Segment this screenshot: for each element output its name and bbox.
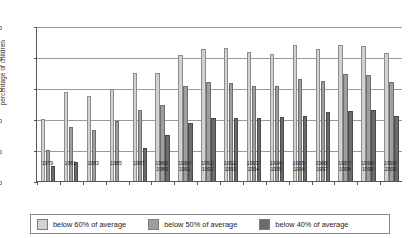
x-tick-label-line: 1985 [110,160,122,166]
x-tick-label-line: 1998 [338,166,351,172]
bar-group [224,27,239,181]
y-axis-title: percentage of children [0,40,6,105]
bar-s50 [115,121,119,181]
x-tick-label-line: 1989 [155,166,168,172]
y-tick-label: 30 [0,86,2,93]
y-tick-mark [34,89,37,90]
x-tick-mark [197,182,198,185]
x-tick-label: 1992/1993 [224,160,237,172]
y-tick-label: 20 [0,117,2,124]
bar-group [384,27,399,181]
x-tick-label-line: 1983 [87,160,99,166]
bar-group [178,27,193,181]
legend-item-s60: below 60% of average [37,219,126,230]
bar-group [155,27,170,181]
bar-s50 [138,110,142,181]
x-tick-label: 1985 [110,160,122,166]
y-tick-label: 50 [0,24,2,31]
bar-s60 [110,89,114,181]
x-tick-label: 1991/1992 [201,160,214,172]
y-tick-label: 10 [0,148,2,155]
x-tick-mark [129,182,130,185]
y-tick-mark [34,151,37,152]
x-tick-label: 1999/2000 [384,160,397,172]
legend-label: below 60% of average [53,220,126,229]
bar-s50 [69,127,73,181]
bar-group [41,27,56,181]
x-tick-label: 1998/1999 [361,160,374,172]
y-tick-mark [34,120,37,121]
bar-s50 [92,130,96,181]
x-tick-label: 1981 [65,160,77,166]
x-tick-mark [220,182,221,185]
x-tick-label: 1993/1994 [247,160,260,172]
x-tick-label-line: 1991 [178,166,191,172]
bar-group [361,27,376,181]
x-tick-label: 1994/1995 [270,160,283,172]
legend-swatch-s40 [259,219,270,230]
y-tick-label: 40 [0,55,2,62]
bar-s40 [165,135,169,181]
bar-group [201,27,216,181]
x-tick-label-line: 1987 [133,160,145,166]
x-tick-mark [243,182,244,185]
x-tick-mark [334,182,335,185]
plot-area [36,27,402,182]
x-tick-label-line: 1979 [42,160,54,166]
bar-s40 [51,166,55,181]
legend-swatch-s50 [148,219,159,230]
x-tick-label-line: 1997 [315,166,328,172]
x-tick-label: 1996/1997 [315,160,328,172]
x-tick-mark [357,182,358,185]
bar-group [87,27,97,181]
x-tick-label-line: 1992 [201,166,214,172]
bar-s60 [87,96,91,181]
bar-group [110,27,120,181]
x-tick-label-line: 1981 [65,160,77,166]
x-tick-mark [266,182,267,185]
x-tick-label-line: 1995 [270,166,283,172]
x-tick-mark [83,182,84,185]
bar-group [133,27,148,181]
bar-group [338,27,353,181]
bar-s60 [64,92,68,181]
x-tick-mark [289,182,290,185]
x-tick-label: 1997/1998 [338,160,351,172]
bar-group [64,27,79,181]
x-tick-label-line: 2000 [384,166,397,172]
x-tick-label-line: 1993 [224,166,237,172]
y-tick-label: 0 [0,179,2,186]
x-tick-label-line: 1999 [361,166,374,172]
bar-s60 [41,119,45,181]
legend-label: below 40% of average [275,220,348,229]
x-tick-label-line: 1996 [293,166,306,172]
x-tick-label: 1987 [133,160,145,166]
x-tick-mark [174,182,175,185]
bar-group [270,27,285,181]
y-tick-mark [34,27,37,28]
x-tick-label: 1979 [42,160,54,166]
legend-item-s40: below 40% of average [259,219,348,230]
x-tick-mark [380,182,381,185]
y-tick-mark [34,58,37,59]
bar-group [247,27,262,181]
legend-item-s50: below 50% of average [148,219,237,230]
x-tick-label: 1983 [87,160,99,166]
bar-group [293,27,308,181]
x-tick-mark [37,182,38,185]
legend-label: below 50% of average [164,220,237,229]
x-tick-label: 1990/1991 [178,160,191,172]
x-tick-mark [60,182,61,185]
bars-layer [37,27,402,181]
x-tick-mark [106,182,107,185]
legend-swatch-s60 [37,219,48,230]
x-tick-mark [312,182,313,185]
x-tick-label: 1988/1989 [155,160,168,172]
chart-legend: below 60% of averagebelow 50% of average… [30,214,390,234]
bar-chart: percentage of children 01020304050 19791… [0,0,408,238]
x-tick-label-line: 1994 [247,166,260,172]
x-tick-label: 1995/1996 [293,160,306,172]
x-tick-mark [151,182,152,185]
bar-group [316,27,331,181]
